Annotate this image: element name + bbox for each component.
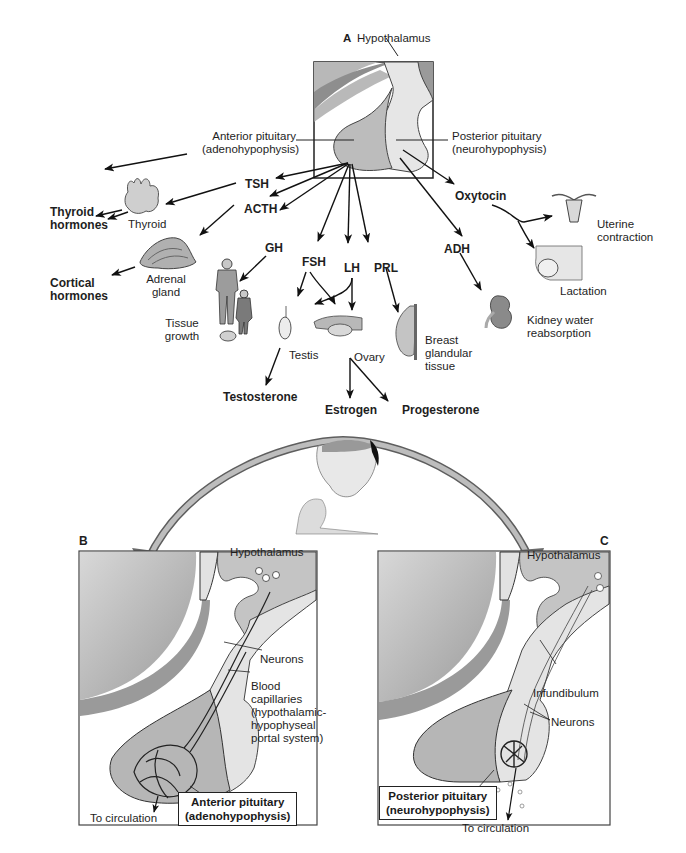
target-ovary: Ovary [354, 351, 385, 364]
lactation-icon [536, 246, 582, 280]
target-kidney: Kidney water reabsorption [527, 314, 593, 340]
panel-c-letter: C [600, 535, 609, 548]
hormone-oxytocin: Oxytocin [455, 190, 506, 203]
hormone-tsh: TSH [245, 178, 269, 191]
capillaries-line4: hypophyseal [251, 719, 326, 732]
capillaries-line1: Blood [251, 680, 326, 693]
adrenal-line1: Adrenal [144, 273, 188, 286]
panel-c-neurons-label: Neurons [551, 716, 594, 729]
panel-b-to-circulation: To circulation [90, 812, 157, 825]
target-tissue-growth: Tissue growth [160, 317, 204, 343]
hormone-fsh: FSH [302, 256, 326, 269]
target-thyroid: Thyroid [128, 218, 166, 231]
posterior-box-line2: (neurohypophysis) [386, 803, 490, 817]
target-adrenal-gland: Adrenal gland [144, 273, 188, 299]
panel-b-hypothalamus-label: Hypothalamus [230, 546, 304, 559]
target-lactation: Lactation [560, 285, 607, 298]
thyroid-hormones-line2: hormones [50, 219, 108, 232]
product-thyroid-hormones: Thyroid hormones [50, 206, 108, 232]
breast-line2: glandular [425, 347, 472, 360]
head-icon [296, 440, 379, 534]
panel-c-posterior-pituitary-box: Posterior pituitary (neurohypophysis) [379, 786, 497, 820]
panel-a-letter: A [343, 32, 351, 45]
thyroid-icon [125, 179, 159, 214]
target-uterine-contraction: Uterine contraction [597, 218, 653, 244]
cortical-hormones-line2: hormones [50, 290, 108, 303]
posterior-box-line1: Posterior pituitary [386, 789, 490, 803]
hormone-prl: PRL [374, 262, 398, 275]
uterine-line1: Uterine [597, 218, 653, 231]
kidney-icon [486, 296, 511, 329]
product-cortical-hormones: Cortical hormones [50, 277, 108, 303]
capillaries-line3: (hypothalamic- [251, 706, 326, 719]
uterine-line2: contraction [597, 231, 653, 244]
anterior-pituitary-line1: Anterior pituitary [202, 130, 296, 143]
anterior-box-line2: (adenohypophysis) [185, 809, 290, 823]
breast-line3: tissue [425, 360, 472, 373]
kidney-line2: reabsorption [527, 327, 593, 340]
product-estrogen: Estrogen [325, 404, 377, 417]
tissue-growth-line2: growth [160, 330, 204, 343]
anterior-pituitary-label: Anterior pituitary (adenohypophysis) [202, 130, 296, 156]
anterior-pituitary-line2: (adenohypophysis) [202, 143, 296, 156]
hypothalamus-label: Hypothalamus [357, 32, 431, 45]
breast-line1: Breast [425, 334, 472, 347]
product-progesterone: Progesterone [402, 404, 479, 417]
target-testis: Testis [289, 349, 318, 362]
posterior-pituitary-line1: Posterior pituitary [452, 130, 547, 143]
tissue-growth-figure-icon [216, 259, 252, 341]
capillaries-line5: portal system) [251, 732, 326, 745]
pituitary-inset [314, 62, 433, 178]
breast-icon [396, 304, 417, 360]
uterus-icon [552, 194, 596, 222]
panel-c-to-circulation: To circulation [462, 822, 529, 835]
panel-b-letter: B [79, 535, 88, 548]
testis-icon [279, 306, 291, 339]
panel-c-hypothalamus-label: Hypothalamus [527, 549, 601, 562]
adrenal-line2: gland [144, 286, 188, 299]
panel-c-infundibulum-label: Infundibulum [533, 687, 599, 700]
panel-b-anterior-pituitary-box: Anterior pituitary (adenohypophysis) [178, 792, 297, 826]
hormone-adh: ADH [444, 243, 470, 256]
hormone-lh: LH [344, 262, 360, 275]
ovary-icon [314, 316, 362, 336]
panel-b-neurons-label: Neurons [260, 653, 303, 666]
posterior-pituitary-line2: (neurohypophysis) [452, 143, 547, 156]
panel-b-capillaries-label: Blood capillaries (hypothalamic- hypophy… [251, 680, 326, 745]
anterior-box-line1: Anterior pituitary [185, 795, 290, 809]
hormone-acth: ACTH [244, 203, 277, 216]
target-breast-glandular-tissue: Breast glandular tissue [425, 334, 472, 373]
posterior-pituitary-label: Posterior pituitary (neurohypophysis) [452, 130, 547, 156]
adrenal-gland-icon [140, 238, 196, 269]
kidney-line1: Kidney water [527, 314, 593, 327]
product-testosterone: Testosterone [223, 391, 297, 404]
capillaries-line2: capillaries [251, 693, 326, 706]
tissue-growth-line1: Tissue [160, 317, 204, 330]
hormone-gh: GH [265, 242, 283, 255]
